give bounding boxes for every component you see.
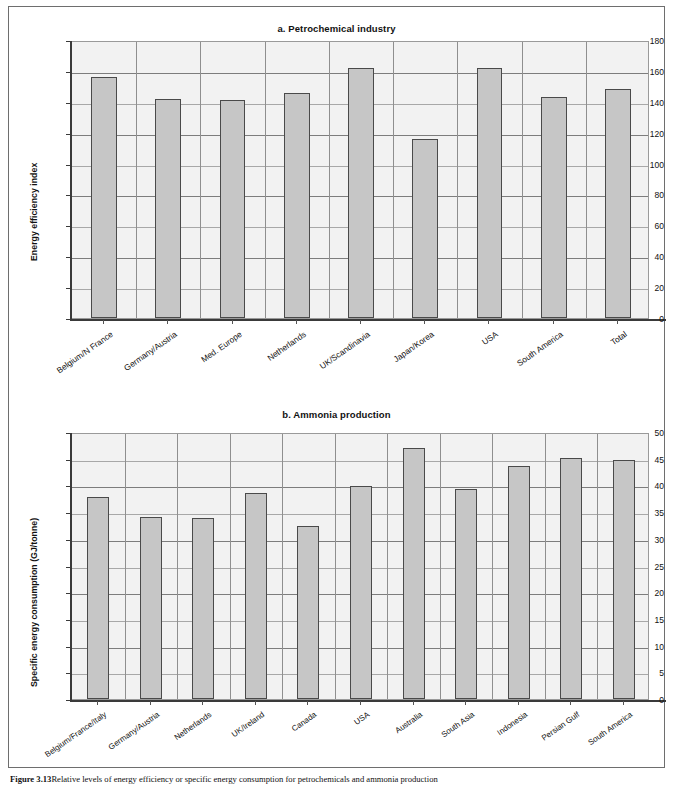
x-tick-mark	[150, 701, 151, 705]
x-category-label: Canada	[290, 710, 318, 733]
y-tick-label: 30	[611, 535, 664, 545]
bar-b-0	[87, 497, 109, 699]
bar-a-6	[477, 68, 503, 318]
y-tick-mark	[66, 319, 70, 320]
x-tick-mark	[167, 320, 168, 324]
chart-b-x-axis	[70, 700, 666, 702]
x-category-label: USA	[480, 329, 500, 347]
category-separator	[440, 434, 441, 699]
x-tick-mark	[413, 701, 414, 705]
category-separator	[597, 434, 598, 699]
bar-b-8	[508, 466, 530, 699]
y-tick-mark	[66, 103, 70, 104]
y-tick-label: 40	[611, 481, 664, 491]
bar-a-4	[348, 68, 374, 318]
x-tick-mark	[488, 320, 489, 324]
chart-a-y-axis	[70, 41, 72, 320]
chart-b-y-axis	[70, 433, 72, 701]
y-tick-label: 5	[611, 668, 664, 678]
x-category-label-wrapper: USA	[366, 701, 385, 718]
chart-a-y-axis-title: Energy efficiency index	[29, 163, 39, 261]
bar-b-7	[455, 489, 477, 699]
bar-b-9	[560, 458, 582, 699]
y-tick-mark	[66, 593, 70, 594]
y-tick-mark	[66, 72, 70, 73]
category-separator	[200, 42, 201, 318]
y-tick-label: 45	[611, 455, 664, 465]
y-tick-mark	[66, 257, 70, 258]
x-tick-mark	[623, 701, 624, 705]
y-tick-mark	[66, 41, 70, 42]
bar-b-4	[297, 526, 319, 699]
chart-b-plot-area	[71, 433, 649, 700]
x-category-label: Australia	[393, 710, 424, 735]
x-category-label: Indonesia	[495, 710, 529, 737]
bar-a-2	[220, 100, 246, 318]
x-tick-mark	[232, 320, 233, 324]
chart-b-y-axis-title: Specific energy consumption (GJ/tonne)	[29, 518, 39, 687]
y-tick-label: 180	[611, 36, 664, 46]
x-tick-mark	[202, 701, 203, 705]
figure-frame: a. Petrochemical industry Energy efficie…	[8, 6, 665, 768]
y-tick-mark	[66, 486, 70, 487]
y-tick-label: 25	[611, 562, 664, 572]
y-tick-mark	[66, 288, 70, 289]
x-category-label: Germany/Austria	[122, 329, 179, 373]
y-tick-mark	[66, 673, 70, 674]
y-tick-label: 100	[611, 160, 664, 170]
x-tick-mark	[553, 320, 554, 324]
x-tick-mark	[465, 701, 466, 705]
chart-a-plot-area	[71, 41, 649, 319]
x-category-label: Germany/Austria	[107, 710, 161, 752]
category-separator	[265, 42, 266, 318]
y-tick-mark	[66, 647, 70, 648]
bar-a-3	[284, 93, 310, 318]
y-tick-label: 15	[611, 615, 664, 625]
bar-a-0	[91, 77, 117, 318]
x-category-label: Netherlands	[265, 329, 307, 363]
y-tick-mark	[66, 540, 70, 541]
x-tick-mark	[97, 701, 98, 705]
category-separator	[586, 42, 587, 318]
y-tick-label: 40	[611, 252, 664, 262]
category-separator	[329, 42, 330, 318]
x-tick-mark	[424, 320, 425, 324]
y-tick-label: 20	[611, 588, 664, 598]
category-separator	[522, 42, 523, 318]
y-tick-label: 20	[611, 283, 664, 293]
category-separator	[177, 434, 178, 699]
x-tick-mark	[307, 701, 308, 705]
x-tick-mark	[570, 701, 571, 705]
x-category-label: Total	[609, 329, 629, 347]
bar-b-6	[403, 448, 425, 700]
x-tick-mark	[518, 701, 519, 705]
chart-a-title: a. Petrochemical industry	[9, 23, 664, 34]
category-separator	[492, 434, 493, 699]
x-tick-mark	[296, 320, 297, 324]
y-tick-mark	[66, 226, 70, 227]
x-category-label: South Asia	[440, 710, 476, 739]
figure-caption-label: Figure 3.13	[10, 774, 51, 784]
y-tick-mark	[66, 433, 70, 434]
x-category-label: Japan/Korea	[392, 329, 436, 364]
category-separator	[282, 434, 283, 699]
bar-b-2	[192, 518, 214, 699]
x-category-label-wrapper: USA	[494, 319, 514, 337]
y-tick-label: 120	[611, 129, 664, 139]
category-separator	[457, 42, 458, 318]
chart-ammonia-production: b. Ammonia production Specific energy co…	[9, 397, 664, 767]
x-tick-mark	[360, 320, 361, 324]
bar-a-1	[155, 99, 181, 318]
x-category-label: USA	[353, 710, 372, 727]
x-category-label: Persian Gulf	[540, 710, 581, 743]
x-category-label: South America	[586, 710, 634, 747]
chart-petrochemical-industry: a. Petrochemical industry Energy efficie…	[9, 11, 664, 385]
category-separator	[393, 42, 394, 318]
x-category-label: UK/Ireland	[230, 710, 266, 739]
x-category-label: Belgium/France/Italy	[44, 710, 109, 759]
y-tick-label: 50	[611, 428, 664, 438]
y-tick-label: 35	[611, 508, 664, 518]
y-tick-label: 80	[611, 190, 664, 200]
figure-caption-text: Relative levels of energy efficiency or …	[51, 774, 437, 784]
bar-b-5	[350, 486, 372, 699]
